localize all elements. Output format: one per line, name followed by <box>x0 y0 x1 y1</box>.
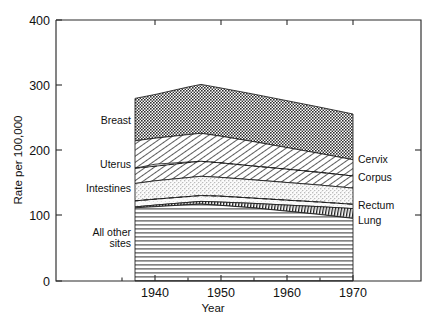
band-all-other-sites <box>135 204 353 281</box>
x-tick-label-1940: 1940 <box>141 286 169 300</box>
band-label-lung: Lung <box>358 214 382 226</box>
plot-bands <box>135 84 353 281</box>
x-tick-label-1970: 1970 <box>339 286 367 300</box>
band-label-intestines: Intestines <box>86 182 131 194</box>
y-tick-label-0: 0 <box>43 275 50 289</box>
x-tick-labels: 1940 1950 1960 1970 <box>141 286 367 300</box>
y-tick-label-400: 400 <box>29 14 50 28</box>
cancer-mortality-stacked-area-chart: 400 300 200 100 0 1940 1950 1960 1970 Ye… <box>0 0 439 317</box>
x-tick-label-1950: 1950 <box>207 286 235 300</box>
x-tick-label-1960: 1960 <box>273 286 301 300</box>
band-label-uterus: Uterus <box>100 158 131 170</box>
band-label-all-other-sites-line2: sites <box>109 237 131 249</box>
x-axis-title: Year <box>201 302 224 314</box>
figure-container: 400 300 200 100 0 1940 1950 1960 1970 Ye… <box>0 0 439 317</box>
y-tick-label-300: 300 <box>29 79 50 93</box>
y-tick-label-200: 200 <box>29 144 50 158</box>
y-tick-label-100: 100 <box>29 209 50 223</box>
band-label-corpus: Corpus <box>358 171 392 183</box>
right-band-labels: Cervix Corpus Rectum Lung <box>358 153 394 226</box>
band-label-rectum: Rectum <box>358 199 394 211</box>
left-band-labels: Breast Uterus Intestines All other sites <box>86 114 131 249</box>
band-label-cervix: Cervix <box>358 153 389 165</box>
y-tick-labels: 400 300 200 100 0 <box>29 14 50 289</box>
band-label-breast: Breast <box>101 114 131 126</box>
y-axis-title: Rate per 100,000 <box>12 116 24 205</box>
